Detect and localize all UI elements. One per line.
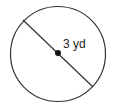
diameter-label: 3 yd bbox=[63, 37, 86, 51]
circle-diagram: 3 yd bbox=[0, 0, 113, 109]
center-point bbox=[55, 50, 61, 56]
